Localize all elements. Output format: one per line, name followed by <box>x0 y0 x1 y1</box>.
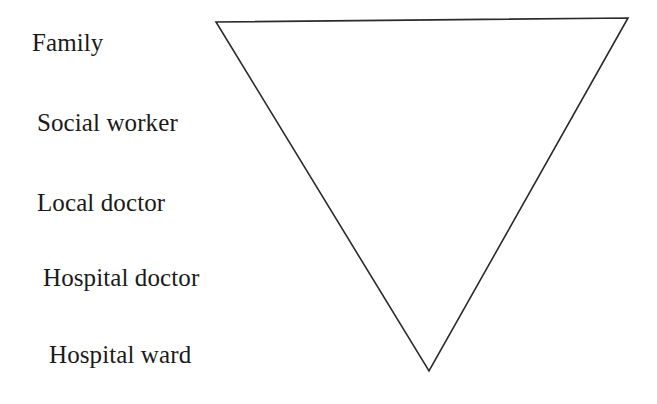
hierarchy-triangle-figure: Family Social worker Local doctor Hospit… <box>0 0 657 404</box>
label-family: Family <box>32 30 103 55</box>
label-social-worker: Social worker <box>37 110 178 135</box>
label-hospital-ward: Hospital ward <box>49 342 191 367</box>
triangle-outline <box>216 18 628 371</box>
label-local-doctor: Local doctor <box>37 190 165 215</box>
label-hospital-doctor: Hospital doctor <box>43 265 199 290</box>
